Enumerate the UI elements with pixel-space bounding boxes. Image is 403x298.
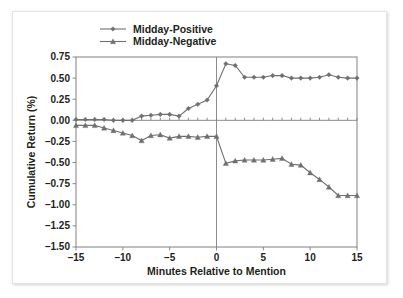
data-point-marker [317,75,322,80]
x-axis-tick-label: 10 [305,252,317,263]
data-point-marker [102,117,107,122]
chart-legend: Midday-PositiveMidday-Negative [100,23,217,48]
x-axis-tick-label: 5 [261,252,267,263]
x-axis-title: Minutes Relative to Mention [147,265,286,277]
y-axis-tick-label: 0.00 [51,115,71,126]
data-point-marker [336,75,341,80]
y-axis-tick-label: 0.75 [51,51,71,62]
data-point-marker [74,117,79,122]
y-axis-tick-label: 0.25 [51,94,71,105]
y-axis-tick-label: –1.50 [45,241,70,252]
y-axis-title: Cumulative Return (%) [25,96,37,209]
data-point-marker [252,75,257,80]
data-point-marker [149,113,154,118]
data-point-marker [139,138,144,143]
data-point-marker [355,76,360,81]
x-axis-tick-label: –15 [68,252,85,263]
data-point-marker [345,76,350,81]
legend-marker-diamond-icon [111,27,116,32]
cumulative-return-chart: Midday-PositiveMidday-Negative 0.750.500… [0,0,403,298]
x-axis-tick-label: 0 [214,252,220,263]
chart-axes: 0.750.500.250.00–0.25–0.50–0.75–1.00–1.2… [45,51,363,263]
data-point-marker [111,118,116,123]
data-point-marker [299,76,304,81]
y-axis-tick-label: 0.50 [51,73,71,84]
x-axis-tick-label: 15 [351,252,363,263]
data-point-marker [121,118,126,123]
data-point-marker [308,76,313,81]
data-point-marker [139,114,144,119]
y-axis-tick-label: –0.25 [45,136,70,147]
legend-label: Midday-Positive [133,23,213,35]
y-axis-tick-label: –1.00 [45,199,70,210]
legend-label: Midday-Negative [133,35,217,47]
data-point-marker [167,112,172,117]
data-point-marker [130,118,135,123]
data-point-marker [327,72,332,77]
data-point-marker [195,102,200,107]
data-point-marker [224,61,229,66]
data-point-marker [270,73,275,78]
data-point-marker [83,117,88,122]
data-point-marker [261,75,266,80]
y-axis-tick-label: –1.25 [45,220,70,231]
y-axis-tick-label: –0.50 [45,157,70,168]
x-axis-tick-label: –10 [114,252,131,263]
data-point-marker [92,117,97,122]
x-axis-tick-label: –5 [164,252,176,263]
data-point-marker [280,73,285,78]
y-axis-tick-label: –0.75 [45,178,70,189]
data-point-marker [289,76,294,81]
figure-container: Midday-PositiveMidday-Negative 0.750.500… [0,0,403,298]
data-point-marker [158,112,163,117]
